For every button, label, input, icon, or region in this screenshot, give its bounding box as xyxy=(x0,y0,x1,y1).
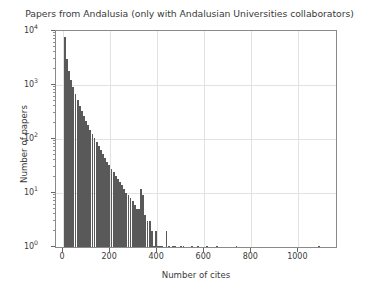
histogram-bar xyxy=(216,246,218,248)
plot-area xyxy=(55,30,337,248)
histogram-bar xyxy=(197,246,199,248)
histogram-bar xyxy=(161,246,163,248)
x-tick-label: 0 xyxy=(60,252,65,261)
y-tick-label: 102 xyxy=(0,134,38,143)
figure: Papers from Andalusia (only with Andalus… xyxy=(0,0,379,297)
histogram-bar xyxy=(236,246,238,248)
histogram-bar xyxy=(174,246,176,248)
y-tick-label: 103 xyxy=(0,80,38,89)
x-tick-label: 1000 xyxy=(287,252,307,261)
x-tick-label: 200 xyxy=(101,252,116,261)
y-tick-label: 101 xyxy=(0,188,38,197)
histogram-bar xyxy=(168,246,170,248)
histogram-bar xyxy=(318,246,320,248)
x-tick-label: 400 xyxy=(149,252,164,261)
gridline-horizontal xyxy=(56,85,336,86)
histogram-bar xyxy=(191,246,193,248)
x-tick-label: 600 xyxy=(196,252,211,261)
chart-title: Papers from Andalusia (only with Andalus… xyxy=(0,8,379,19)
histogram-bar xyxy=(206,246,208,248)
gridline-horizontal xyxy=(56,139,336,140)
histogram-bar xyxy=(183,246,185,248)
x-axis-label: Number of cites xyxy=(55,270,337,280)
y-tick-label: 104 xyxy=(0,26,38,35)
x-tick-label: 800 xyxy=(243,252,258,261)
y-tick-label: 100 xyxy=(0,242,38,251)
